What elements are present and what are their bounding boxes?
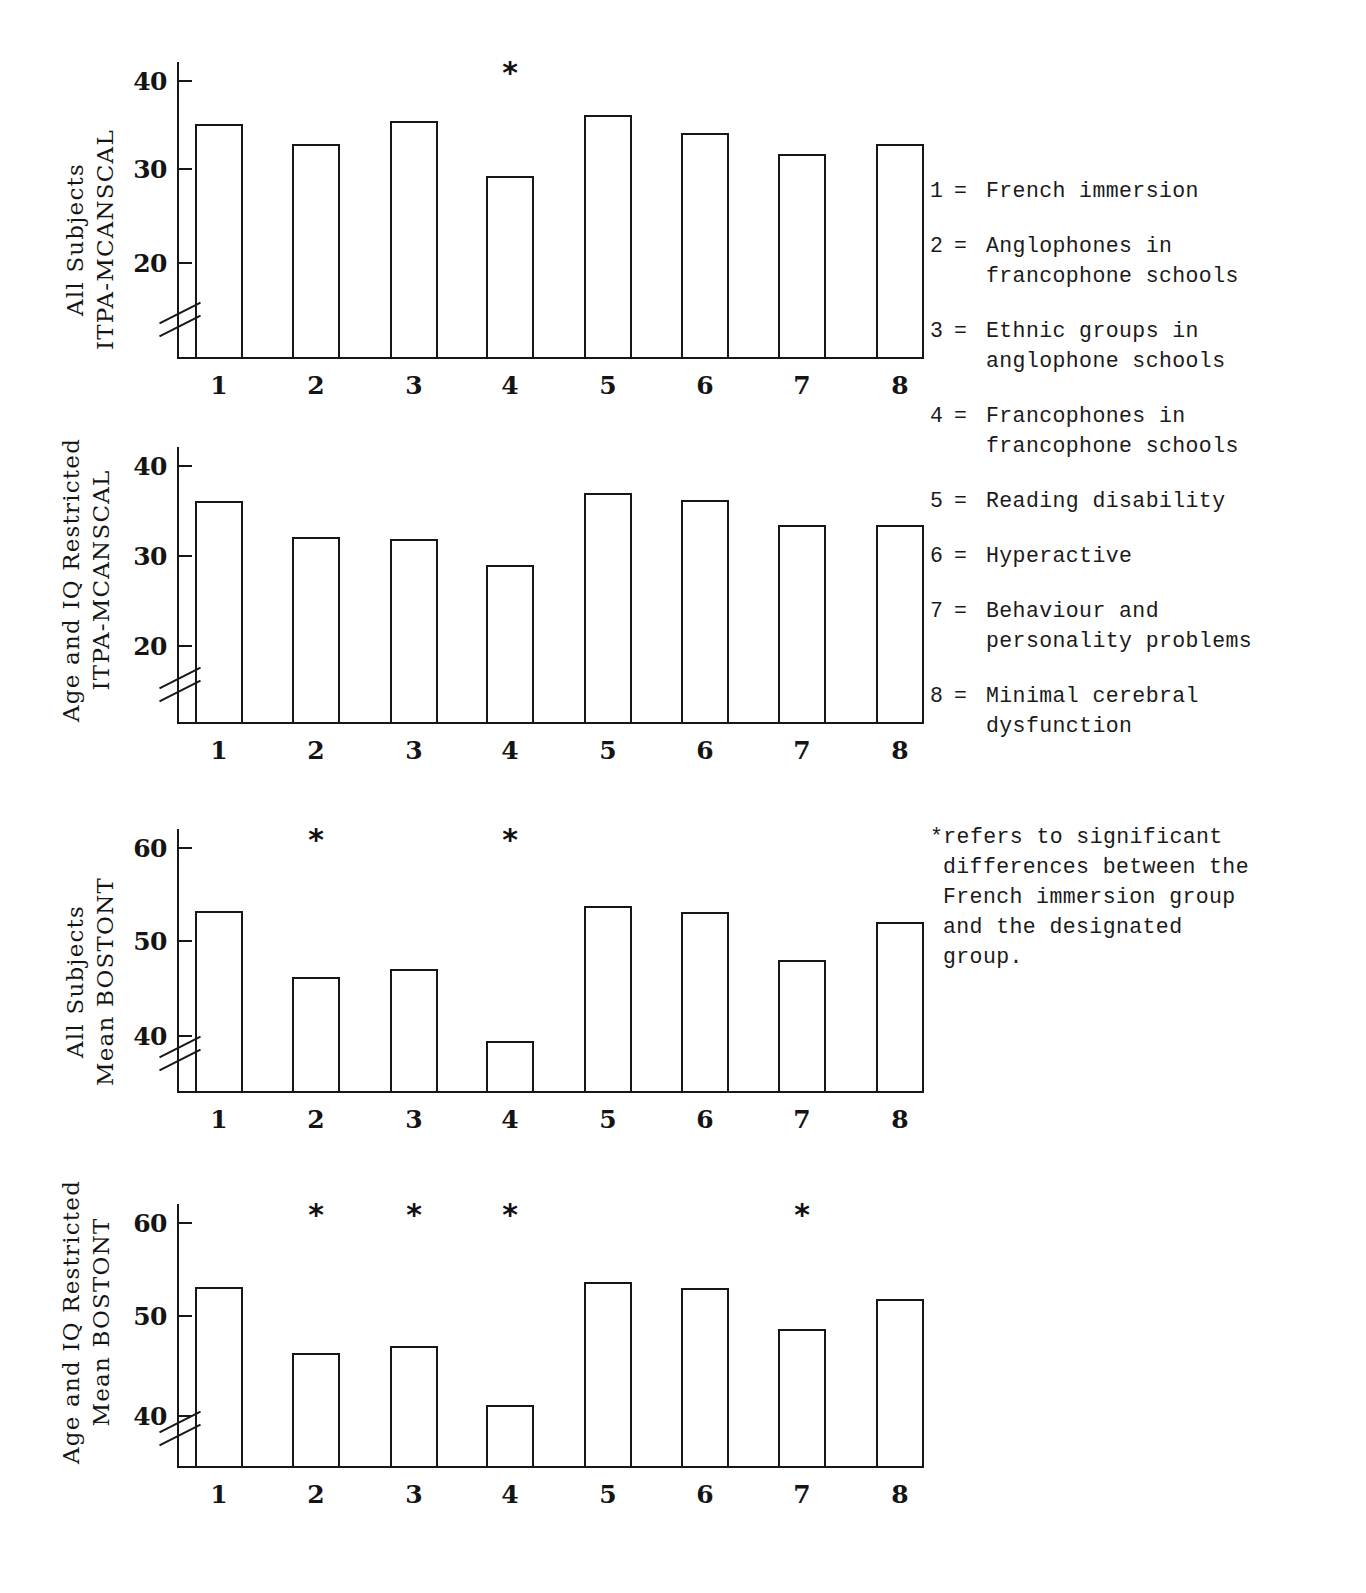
bar	[195, 911, 243, 1093]
bar	[681, 500, 729, 724]
legend-item: 8=Minimal cerebraldysfunction	[930, 681, 1350, 741]
legend-item-key: 3	[930, 316, 954, 376]
bar	[486, 1405, 534, 1468]
y-axis-tick	[179, 1035, 192, 1037]
significance-asterisk: *	[486, 58, 534, 88]
x-axis-tick-label: 7	[778, 736, 826, 765]
bar	[876, 525, 924, 724]
significance-asterisk: *	[292, 1200, 340, 1230]
legend-item-equals: =	[954, 176, 986, 206]
x-axis-tick-label: 5	[584, 371, 632, 400]
y-axis-tick	[179, 465, 192, 467]
significance-footnote: *refers to significantdifferences betwee…	[930, 822, 1350, 972]
bar	[390, 969, 438, 1093]
legend-item-label: Behaviour andpersonality problems	[986, 596, 1252, 656]
x-axis-tick-label: 8	[876, 1105, 924, 1134]
legend-item-label-line: dysfunction	[986, 711, 1199, 741]
y-axis-tick	[179, 847, 192, 849]
x-axis-tick-label: 6	[681, 736, 729, 765]
x-axis-tick-label: 1	[195, 1105, 243, 1134]
y-axis-tick-label: 40	[119, 67, 167, 96]
bar	[195, 1287, 243, 1468]
significance-asterisk: *	[390, 1200, 438, 1230]
x-axis-tick-label: 7	[778, 1105, 826, 1134]
footnote-line: *refers to significant	[930, 822, 1350, 852]
x-axis-tick-label: 5	[584, 1480, 632, 1509]
bar	[778, 525, 826, 724]
bar	[195, 501, 243, 724]
panel-axis-caption-line: All Subjects	[60, 877, 90, 1086]
x-axis-tick-label: 2	[292, 736, 340, 765]
legend-item-label-line: personality problems	[986, 626, 1252, 656]
legend-item-equals: =	[954, 316, 986, 376]
x-axis-tick-label: 6	[681, 1480, 729, 1509]
x-axis-tick-label: 3	[390, 1105, 438, 1134]
legend-item-label-line: francophone schools	[986, 431, 1239, 461]
x-axis-tick-label: 3	[390, 1480, 438, 1509]
bar	[778, 154, 826, 359]
y-axis-tick-label: 60	[119, 834, 167, 863]
bar	[584, 493, 632, 724]
bar	[778, 1329, 826, 1468]
significance-asterisk: *	[778, 1200, 826, 1230]
y-axis-tick-label: 40	[119, 1022, 167, 1051]
legend-item-label: Francophones infrancophone schools	[986, 401, 1239, 461]
bar	[876, 1299, 924, 1468]
panel-axis-caption-line: Mean BOSTONT	[90, 877, 120, 1086]
legend-item-label-line: Reading disability	[986, 486, 1225, 516]
footnote-line: and the designated	[930, 912, 1350, 942]
bar	[390, 121, 438, 359]
x-axis-tick-label: 2	[292, 371, 340, 400]
panel-axis-caption-line: Age and IQ Restricted	[56, 1180, 86, 1464]
legend-item-key: 5	[930, 486, 954, 516]
legend-item: 1=French immersion	[930, 176, 1350, 206]
x-axis-tick-label: 8	[876, 736, 924, 765]
legend-item-label-line: Behaviour and	[986, 596, 1252, 626]
bar	[681, 133, 729, 359]
panel-axis-caption: All SubjectsITPA-MCANSCAL	[60, 129, 120, 350]
bar	[681, 1288, 729, 1468]
bar	[486, 565, 534, 724]
legend-item-label-line: Francophones in	[986, 401, 1239, 431]
y-axis-tick-label: 20	[119, 632, 167, 661]
x-axis-tick-label: 6	[681, 371, 729, 400]
legend-item-equals: =	[954, 541, 986, 571]
bar	[778, 960, 826, 1093]
bar	[292, 977, 340, 1093]
legend: 1=French immersion2=Anglophones infranco…	[930, 176, 1350, 766]
y-axis-tick-label: 50	[119, 1302, 167, 1331]
y-axis-line	[177, 829, 179, 1093]
bar	[292, 537, 340, 724]
significance-asterisk: *	[292, 825, 340, 855]
y-axis-tick	[179, 555, 192, 557]
legend-item: 7=Behaviour andpersonality problems	[930, 596, 1350, 656]
panel-axis-caption-line: ITPA-MCANSCAL	[86, 438, 116, 722]
y-axis-line	[177, 447, 179, 724]
significance-asterisk: *	[486, 1200, 534, 1230]
y-axis-tick-label: 20	[119, 249, 167, 278]
y-axis-tick-label: 30	[119, 155, 167, 184]
y-axis-tick	[179, 80, 192, 82]
x-axis-tick-label: 5	[584, 1105, 632, 1134]
y-axis-tick	[179, 1315, 192, 1317]
x-axis-tick-label: 4	[486, 1480, 534, 1509]
legend-item-key: 1	[930, 176, 954, 206]
bar	[876, 144, 924, 359]
legend-item: 6=Hyperactive	[930, 541, 1350, 571]
x-axis-tick-label: 8	[876, 371, 924, 400]
bar	[584, 906, 632, 1093]
legend-item-label-line: Ethnic groups in	[986, 316, 1225, 346]
y-axis-tick-label: 60	[119, 1209, 167, 1238]
x-axis-tick-label: 5	[584, 736, 632, 765]
bar	[584, 115, 632, 359]
legend-item: 5=Reading disability	[930, 486, 1350, 516]
legend-item-equals: =	[954, 401, 986, 461]
legend-item-label-line: francophone schools	[986, 261, 1239, 291]
figure-sheet: 20304012345678*All SubjectsITPA-MCANSCAL…	[0, 0, 1366, 1593]
y-axis-tick	[179, 168, 192, 170]
y-axis-line	[177, 1204, 179, 1468]
bar	[876, 922, 924, 1093]
panel-axis-caption-line: Age and IQ Restricted	[56, 438, 86, 722]
bar	[195, 124, 243, 359]
x-axis-tick-label: 8	[876, 1480, 924, 1509]
